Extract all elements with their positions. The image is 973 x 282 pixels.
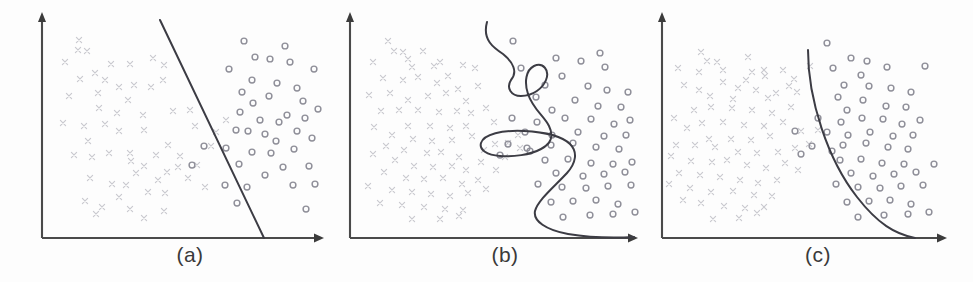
data-point-x [704, 58, 709, 63]
data-point-o [855, 184, 861, 190]
data-point-x [668, 153, 673, 158]
data-point-x [443, 90, 448, 95]
data-point-x [177, 153, 182, 158]
data-point-x [378, 108, 383, 113]
data-point-o [908, 201, 914, 207]
data-point-o [559, 184, 565, 190]
data-point-x [403, 175, 408, 180]
data-point-o [858, 156, 864, 162]
data-point-x [721, 203, 726, 208]
data-point-x [170, 108, 175, 113]
data-point-o [306, 163, 312, 169]
data-point-o [294, 85, 300, 91]
data-point-o [833, 181, 839, 187]
data-point-o [917, 117, 923, 123]
data-point-o [580, 173, 586, 179]
data-point-x [420, 48, 425, 53]
data-point-x [791, 76, 796, 81]
data-point-x [749, 107, 754, 112]
data-point-x [383, 143, 388, 148]
data-point-x [788, 104, 793, 109]
data-point-x [392, 157, 397, 162]
data-point-o [615, 201, 621, 207]
y-axis-arrowhead-b [346, 12, 354, 22]
data-point-x [93, 211, 98, 216]
data-point-x [491, 119, 496, 124]
data-point-x [161, 208, 166, 213]
data-point-o [908, 89, 914, 95]
data-point-x [706, 136, 711, 141]
data-point-x [148, 84, 153, 89]
data-point-x [400, 77, 405, 82]
data-point-x [449, 163, 454, 168]
data-point-x [437, 216, 442, 221]
data-point-x [370, 151, 375, 156]
data-point-x [128, 158, 133, 163]
data-point-o [628, 182, 634, 188]
data-point-o [239, 89, 245, 95]
data-point-x [141, 127, 146, 132]
data-point-x [400, 49, 405, 54]
data-point-o [859, 115, 865, 121]
data-point-x [515, 132, 520, 137]
data-point-o [881, 212, 887, 218]
data-point-x [164, 169, 169, 174]
data-point-o [601, 171, 607, 177]
data-point-o [287, 59, 293, 65]
panel-caption-b: (b) [491, 243, 518, 266]
data-point-x [145, 189, 150, 194]
data-point-o [602, 64, 608, 70]
data-point-x [698, 200, 703, 205]
data-point-x [421, 204, 426, 209]
data-point-x [741, 122, 746, 127]
data-point-x [223, 117, 228, 122]
data-point-o [518, 65, 524, 71]
data-point-o [870, 173, 876, 179]
data-point-o [588, 160, 594, 166]
data-point-x [415, 74, 420, 79]
data-point-x [430, 164, 435, 169]
data-point-o [866, 198, 872, 204]
data-point-x [699, 120, 704, 125]
data-point-o [792, 128, 798, 134]
data-point-o [866, 83, 872, 89]
data-point-o [622, 169, 628, 175]
data-point-o [303, 206, 309, 212]
data-point-x [673, 142, 678, 147]
data-point-o [824, 129, 830, 135]
data-point-o [604, 87, 610, 93]
data-point-x [160, 77, 165, 82]
data-point-x [475, 177, 480, 182]
data-point-x [92, 70, 97, 75]
data-point-x [671, 115, 676, 120]
x-axis-arrowhead-c [937, 234, 947, 243]
data-point-o [549, 107, 555, 113]
data-point-x [165, 142, 170, 147]
data-point-o [585, 83, 591, 89]
panel-a [38, 12, 324, 243]
data-point-x [405, 56, 410, 61]
data-point-o [249, 77, 255, 83]
data-point-x [102, 77, 107, 82]
axes-a [38, 12, 324, 243]
data-point-o [553, 55, 559, 61]
data-point-o [920, 182, 926, 188]
data-point-x [411, 163, 416, 168]
data-point-x [106, 150, 111, 155]
data-point-x [463, 167, 468, 172]
data-point-x [775, 149, 780, 154]
data-point-x [794, 89, 799, 94]
data-point-x [493, 167, 498, 172]
data-point-o [880, 116, 886, 122]
data-point-o [616, 146, 622, 152]
data-point-o [627, 117, 633, 123]
data-point-x [463, 98, 468, 103]
data-point-x [730, 188, 735, 193]
data-point-o [597, 50, 603, 56]
data-point-o [262, 131, 268, 137]
panel-caption-a: (a) [176, 243, 203, 266]
data-point-x [370, 59, 375, 64]
data-point-x [96, 105, 101, 110]
data-point-x [765, 95, 770, 100]
data-point-x [85, 138, 90, 143]
